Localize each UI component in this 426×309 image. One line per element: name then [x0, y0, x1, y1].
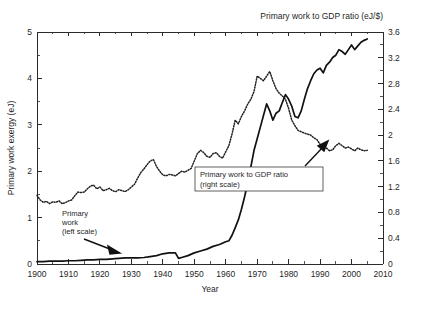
- y-axis-right-tick-labels: 00.40.81.21.622.42.83.23.6: [388, 27, 400, 269]
- y-right-tick-label: 0.4: [388, 233, 400, 243]
- x-tick-label: 2000: [342, 269, 361, 279]
- x-axis-tick-labels: 1900191019201930194019501960197019801990…: [28, 269, 393, 279]
- x-tick-label: 1990: [311, 269, 330, 279]
- x-tick-label: 1920: [90, 269, 109, 279]
- y-right-tick-label: 0.8: [388, 207, 400, 217]
- y-axis-left-ticks: [37, 32, 42, 264]
- y-left-tick-label: 1: [27, 213, 32, 223]
- y-right-tick-label: 0: [388, 259, 393, 269]
- x-axis-title: Year: [201, 284, 218, 294]
- y-axis-title: Primary work exergy (eJ): [6, 101, 16, 196]
- primary-work-annotation-line-2: work: [61, 218, 78, 227]
- y-left-tick-label: 5: [27, 27, 32, 37]
- ratio-annotation-line-2: (right scale): [200, 180, 240, 189]
- chart-figure: Primary work to GDP ratio (eJ/$) 1900191…: [0, 0, 426, 309]
- x-tick-label: 1960: [216, 269, 235, 279]
- primary-work-annotation: Primary work (left scale): [61, 209, 120, 254]
- chart-canvas: Primary work to GDP ratio (eJ/$) 1900191…: [0, 0, 426, 309]
- primary-work-annotation-line-1: Primary: [62, 209, 88, 218]
- x-tick-label: 1950: [185, 269, 204, 279]
- y-right-tick-label: 1.6: [388, 156, 400, 166]
- x-tick-label: 1930: [122, 269, 141, 279]
- y-right-tick-label: 2.8: [388, 79, 400, 89]
- x-tick-label: 1970: [248, 269, 267, 279]
- y-right-tick-label: 3.2: [388, 53, 400, 63]
- y-right-tick-label: 1.2: [388, 182, 400, 192]
- y-left-tick-label: 4: [27, 73, 32, 83]
- ratio-annotation-arrow-icon: [305, 141, 328, 166]
- y-right-tick-label: 3.6: [388, 27, 400, 37]
- ratio-annotation: Primary work to GDP ratio (right scale): [195, 141, 328, 191]
- x-tick-label: 1900: [28, 269, 47, 279]
- y-left-tick-label: 3: [27, 120, 32, 130]
- y-right-tick-label: 2: [388, 130, 393, 140]
- y-axis-left-tick-labels: 012345: [27, 27, 32, 269]
- x-tick-label: 1980: [279, 269, 298, 279]
- x-tick-label: 1940: [153, 269, 172, 279]
- ratio-annotation-line-1: Primary work to GDP ratio: [200, 170, 288, 179]
- primary-work-annotation-arrow-icon: [84, 239, 120, 254]
- y-left-tick-label: 2: [27, 166, 32, 176]
- y-left-tick-label: 0: [27, 259, 32, 269]
- right-axis-title: Primary work to GDP ratio (eJ/$): [260, 11, 383, 21]
- y-axis-right-ticks: [378, 32, 383, 264]
- x-tick-label: 1910: [59, 269, 78, 279]
- primary-work-annotation-line-3: (left scale): [62, 227, 97, 236]
- y-right-tick-label: 2.4: [388, 104, 400, 114]
- x-tick-label: 2010: [374, 269, 393, 279]
